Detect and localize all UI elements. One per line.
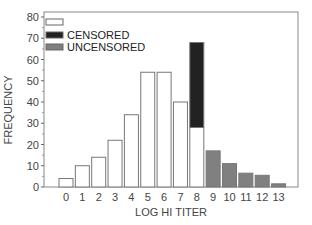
- y-tick-label: 40: [27, 96, 39, 108]
- x-tick-label: 11: [240, 191, 251, 203]
- bar-5: [141, 72, 155, 187]
- x-tick-label: 5: [145, 191, 151, 203]
- bar-1: [75, 166, 89, 187]
- x-tick-label: 13: [272, 191, 284, 203]
- y-tick-label: 30: [27, 117, 39, 129]
- y-tick-label: 60: [27, 54, 39, 66]
- x-tick-label: 3: [112, 191, 118, 203]
- x-tick-label: 6: [161, 191, 167, 203]
- legend-label: UNCENSORED: [67, 41, 145, 53]
- x-tick-label: 8: [194, 191, 200, 203]
- bar-6: [157, 72, 171, 187]
- x-tick-label: 7: [177, 191, 183, 203]
- legend-swatch: [46, 19, 63, 25]
- bar-8-censored: [190, 43, 204, 128]
- bar-13-uncensored: [272, 184, 286, 187]
- x-tick-label: 0: [63, 191, 69, 203]
- bar-8: [190, 128, 204, 188]
- y-tick-label: 20: [27, 139, 39, 151]
- x-axis-title: LOG HI TITER: [135, 206, 207, 218]
- x-tick-label: 9: [210, 191, 216, 203]
- legend-swatch: [46, 44, 63, 50]
- bar-11-uncensored: [239, 173, 253, 187]
- bar-10-uncensored: [223, 164, 237, 187]
- x-tick-label: 12: [256, 191, 268, 203]
- y-tick-label: 70: [27, 32, 39, 44]
- bar-0: [59, 179, 73, 188]
- legend: CENSOREDUNCENSORED: [46, 19, 145, 53]
- y-tick-label: 80: [27, 11, 39, 23]
- y-tick-label: 0: [33, 181, 39, 193]
- x-tick-label: 2: [96, 191, 102, 203]
- y-tick-label: 10: [27, 160, 39, 172]
- bar-9-uncensored: [206, 151, 220, 187]
- x-tick-label: 4: [128, 191, 134, 203]
- bar-2: [92, 157, 106, 187]
- y-axis-title: FREQUENCY: [2, 75, 14, 145]
- y-tick-label: 50: [27, 75, 39, 87]
- y-axis: 01020304050607080: [27, 11, 44, 193]
- legend-swatch: [46, 32, 63, 38]
- bar-7: [173, 102, 187, 187]
- x-axis: 012345678910111213: [63, 191, 285, 203]
- histogram-chart: 01020304050607080 012345678910111213 CEN…: [0, 0, 312, 225]
- legend-label: CENSORED: [67, 29, 129, 41]
- bars: [59, 43, 286, 188]
- bar-4: [124, 115, 138, 187]
- bar-12-uncensored: [255, 175, 269, 187]
- bar-3: [108, 140, 122, 187]
- x-tick-label: 1: [79, 191, 85, 203]
- x-tick-label: 10: [223, 191, 235, 203]
